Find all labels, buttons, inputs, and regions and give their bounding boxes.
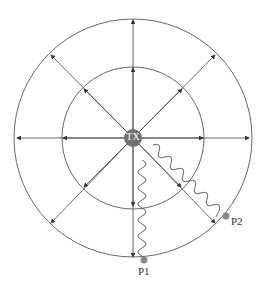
tx-label: TX [123,131,143,142]
diagram: TX P1 P2 [0,0,263,291]
p2-point [223,213,230,220]
wave-to-p1 [138,160,146,260]
propagation-diagram [0,0,263,291]
p2-label: P2 [231,215,243,227]
p1-label: P1 [138,265,150,277]
wave-to-p2 [153,144,220,217]
p1-point [141,257,148,264]
